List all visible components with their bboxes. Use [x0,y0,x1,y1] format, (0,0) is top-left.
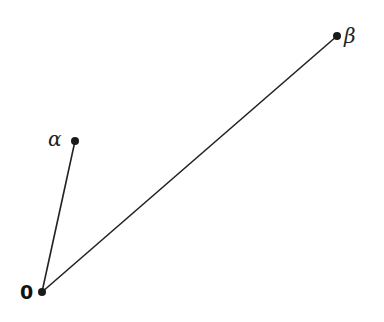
point-origin [38,288,46,296]
segment-origin-beta [42,36,337,292]
label-beta: β [343,24,356,48]
label-alpha: α [48,127,62,151]
point-beta [333,32,341,40]
segment-origin-alpha [42,141,75,292]
label-origin: 0 [20,281,33,303]
point-alpha [71,137,79,145]
vector-diagram: 0 α β [0,0,384,322]
